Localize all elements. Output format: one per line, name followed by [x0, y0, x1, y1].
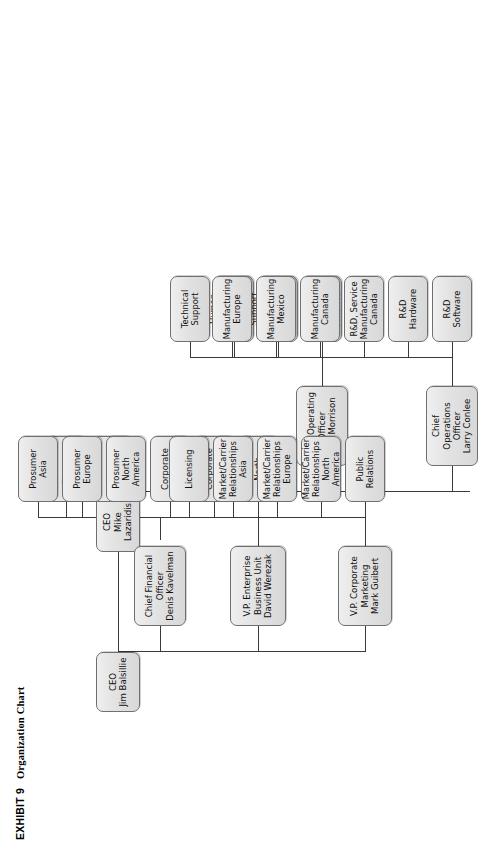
node-ceo-jim-balsillie[interactable]: CEO Jim Balsillie	[96, 652, 140, 712]
node-label: CEO Jim Balsillie	[108, 658, 129, 707]
connector-vpe-child-4	[82, 502, 83, 518]
node-rd-software[interactable]: R&D Software	[432, 276, 472, 342]
connector-ops-run	[452, 358, 453, 386]
connector-coo-child-0	[322, 342, 323, 358]
node-label: Prosumer Europe	[72, 449, 93, 489]
node-label: R&D Software	[442, 291, 463, 328]
connector-ceo1-spine	[140, 651, 365, 652]
connector-vpe-child-2	[170, 502, 171, 518]
node-label: Market/Carrier Relationships Asia	[218, 439, 249, 499]
connector-ops-child-5	[232, 342, 233, 358]
connector-cfo-run	[160, 518, 161, 540]
node-licensing[interactable]: Licensing	[169, 436, 209, 502]
connector-ops-child-3	[320, 342, 321, 358]
connector-coo-child-3	[190, 342, 191, 358]
node-public-relations[interactable]: Public Relations	[345, 436, 385, 502]
connector-ops-child-2	[364, 342, 365, 358]
node-vp-corporate-marketing-mark-guibert[interactable]: V.P. Corporate Marketing Mark Guibert	[338, 546, 392, 626]
node-label: Manufacturing Canada	[310, 279, 331, 340]
page-title: EXHIBIT 9Organization Chart	[14, 686, 26, 840]
connector-coo-child-1	[278, 342, 279, 358]
node-manufacturing-mexico[interactable]: Manufacturing Mexico	[256, 276, 296, 342]
connector-ops-child-0	[452, 342, 453, 358]
node-label: R&D Hardware	[398, 289, 419, 329]
node-vp-enterprise-david-werezak[interactable]: V.P. Enterprise Business Unit David Were…	[230, 546, 286, 626]
node-market-carrier-relationships-north-america[interactable]: Market/Carrier Relationships North Ameri…	[301, 436, 341, 502]
node-label: Chief Operations Officer Larry Conlee	[431, 390, 473, 462]
node-label: Manufacturing Mexico	[266, 279, 287, 340]
node-rd-service-manufacturing-canada[interactable]: R&D, Service Manufacturing Canada	[344, 276, 384, 342]
connector-ops-child-1	[408, 342, 409, 358]
connector-vpe-child-0	[258, 502, 259, 518]
node-label: Market/Carrier Relationships Europe	[262, 439, 293, 499]
connector-cfo-child-1	[66, 502, 67, 518]
connector-vpm-child-0	[365, 502, 366, 518]
node-label: Prosumer Asia	[28, 449, 49, 489]
node-label: Manufacturing Europe	[222, 279, 243, 340]
node-label: Chief Financial Officer Denis Kavelman	[144, 550, 175, 622]
connector-vpm-child-3	[233, 502, 234, 518]
node-manufacturing-canada[interactable]: Manufacturing Canada	[300, 276, 340, 342]
connector-coo-child-2	[234, 342, 235, 358]
connector-ceo1-to-vpm	[365, 626, 366, 652]
node-label: Market/Carrier Relationships North Ameri…	[301, 439, 342, 499]
exhibit-title-text: Organization Chart	[15, 686, 26, 779]
exhibit-label: EXHIBIT 9	[14, 788, 26, 840]
connector-vpm-run	[365, 518, 366, 546]
connector-vpm-child-1	[321, 502, 322, 518]
connector-vpe-run	[258, 518, 259, 546]
node-technical-support[interactable]: Technical Support	[170, 276, 210, 342]
node-label: Licensing	[184, 449, 194, 488]
connector-ceo2-to-chief-operations	[452, 466, 453, 492]
connector-coo-run	[322, 358, 323, 386]
node-prosumer-north-america[interactable]: Prosumer North America	[106, 436, 146, 502]
node-market-carrier-relationships-europe[interactable]: Market/Carrier Relationships Europe	[257, 436, 297, 502]
node-label: CEO Mike Lazaridis	[102, 496, 133, 548]
connector-vpe-child-5	[38, 502, 39, 518]
node-manufacturing-europe[interactable]: Manufacturing Europe	[212, 276, 252, 342]
node-market-carrier-relationships-asia[interactable]: Market/Carrier Relationships Asia	[213, 436, 253, 502]
node-label: Technical Support	[180, 280, 201, 338]
node-prosumer-asia[interactable]: Prosumer Asia	[18, 436, 58, 502]
connector-vpe-child-1	[214, 502, 215, 518]
node-prosumer-europe[interactable]: Prosumer Europe	[62, 436, 102, 502]
connector-ceo1-to-vpe	[258, 626, 259, 652]
node-rd-hardware[interactable]: R&D Hardware	[388, 276, 428, 342]
connector-ceo1-to-cfo	[160, 626, 161, 652]
org-chart-page: EXHIBIT 9Organization Chart	[0, 0, 478, 858]
node-label: V.P. Enterprise Business Unit David Were…	[242, 554, 273, 618]
connector-ops-bus	[232, 357, 452, 358]
node-chief-operations-larry-conlee[interactable]: Chief Operations Officer Larry Conlee	[426, 386, 478, 466]
node-label: R&D, Service Manufacturing Canada	[349, 279, 380, 340]
connector-vpm-child-2	[277, 502, 278, 518]
node-label: Public Relations	[355, 440, 376, 498]
node-label: V.P. Corporate Marketing Mark Guibert	[349, 550, 380, 622]
node-label: Prosumer North America	[111, 440, 142, 498]
node-cfo-denis-kavelman[interactable]: Chief Financial Officer Denis Kavelman	[134, 546, 186, 626]
connector-ops-child-4	[276, 342, 277, 358]
connector-vpm-child-4	[189, 502, 190, 518]
rotated-page-wrapper: EXHIBIT 9Organization Chart	[0, 0, 478, 858]
